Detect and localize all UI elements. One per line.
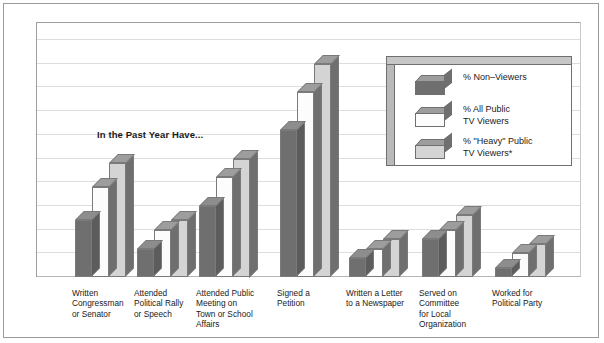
bar-side-face xyxy=(91,211,100,277)
legend-swatch-icon xyxy=(415,107,453,122)
bar xyxy=(349,258,366,277)
legend-body: % Non–Viewers % All Public TV Viewers % … xyxy=(394,64,572,166)
bar xyxy=(199,206,216,277)
bar xyxy=(137,249,154,277)
bar-side-face xyxy=(296,121,305,277)
legend-swatch-icon xyxy=(415,75,453,90)
category-label: Served onCommitteefor LocalOrganization xyxy=(419,288,489,330)
legend-label: % All Public TV Viewers xyxy=(463,104,510,127)
legend-entry: % All Public TV Viewers xyxy=(415,103,575,133)
bar-side-face xyxy=(125,154,134,277)
bar-front-face xyxy=(280,130,297,277)
category-label: Signed aPetition xyxy=(277,288,347,309)
legend-entry: % Non–Viewers xyxy=(415,71,575,101)
bar xyxy=(422,239,439,277)
category-label: AttendedPolitical Rallyor Speech xyxy=(134,288,204,319)
bar-group: 453931 xyxy=(280,23,340,277)
bar xyxy=(75,220,92,277)
legend-label: % Non–Viewers xyxy=(463,72,527,84)
chart-legend: % Non–Viewers % All Public TV Viewers % … xyxy=(386,56,572,166)
bar-front-face xyxy=(495,268,512,277)
bar-front-face xyxy=(137,249,154,277)
legend-swatch-icon xyxy=(415,139,453,154)
bar-group: 252115 xyxy=(199,23,259,277)
bar-group: 241912 xyxy=(75,23,135,277)
category-label: WrittenCongressmanor Senator xyxy=(72,288,142,319)
bar xyxy=(495,268,512,277)
bar-side-face xyxy=(330,55,339,277)
bar-side-face xyxy=(232,168,241,277)
category-label: Attended PublicMeeting onTown or SchoolA… xyxy=(196,288,266,330)
legend-entry: % "Heavy" Public TV Viewers* xyxy=(415,135,575,165)
bar-front-face xyxy=(75,220,92,277)
bar-side-face xyxy=(187,211,196,277)
chart-frame: In the Past Year Have... 241912121062521… xyxy=(3,3,599,338)
legend-label: % "Heavy" Public TV Viewers* xyxy=(463,136,532,159)
bar xyxy=(280,130,297,277)
bar-side-face xyxy=(313,83,322,277)
bar-front-face xyxy=(422,239,439,277)
bar-side-face xyxy=(108,178,117,277)
category-label: Written a Letterto a Newspaper xyxy=(346,288,416,309)
category-label: Worked forPolitical Party xyxy=(492,288,562,309)
bar-front-face xyxy=(199,206,216,277)
bar-group: 12106 xyxy=(137,23,197,277)
bar-front-face xyxy=(349,258,366,277)
bar-side-face xyxy=(249,150,258,278)
bar-side-face xyxy=(215,197,224,277)
bar-side-face xyxy=(472,206,481,277)
